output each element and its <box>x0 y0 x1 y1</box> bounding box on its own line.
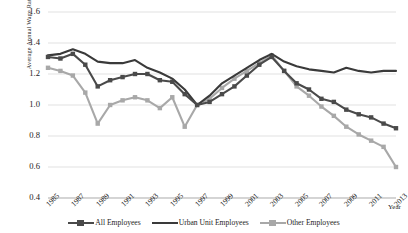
series-urban-unit-employees <box>48 49 396 105</box>
legend-marker <box>77 220 84 226</box>
legend-gap <box>141 222 152 223</box>
x-axis-title: Year <box>388 203 401 211</box>
y-tick-label: 1.6 <box>14 6 40 16</box>
y-tick-label: 1.2 <box>14 68 40 78</box>
legend-item-urban-unit-employees[interactable]: Urban Unit Employees <box>152 218 249 227</box>
series-all-employees <box>46 52 398 131</box>
legend-item-other-employees[interactable]: Other Employees <box>260 218 340 227</box>
legend-swatch <box>152 219 178 227</box>
chart-legend: All EmployeesUrban Unit EmployeesOther E… <box>0 218 408 227</box>
legend-label: All Employees <box>95 218 140 227</box>
y-tick-label: 0.8 <box>14 130 40 140</box>
legend-swatch <box>68 219 94 227</box>
y-tick-label: 1.4 <box>14 37 40 47</box>
wage-ratio-line-chart: Average Annual Wage Ratio 1.61.41.21.00.… <box>0 0 408 233</box>
legend-swatch <box>260 219 286 227</box>
legend-line <box>152 222 178 224</box>
legend-label: Urban Unit Employees <box>179 218 249 227</box>
legend-marker <box>269 220 276 226</box>
legend-label: Other Employees <box>287 218 340 227</box>
legend-gap <box>249 222 260 223</box>
y-tick-label: 0.6 <box>14 161 40 171</box>
y-tick-label: 1.0 <box>14 99 40 109</box>
legend-item-all-employees[interactable]: All Employees <box>68 218 140 227</box>
y-tick-label: 0.4 <box>14 192 40 202</box>
